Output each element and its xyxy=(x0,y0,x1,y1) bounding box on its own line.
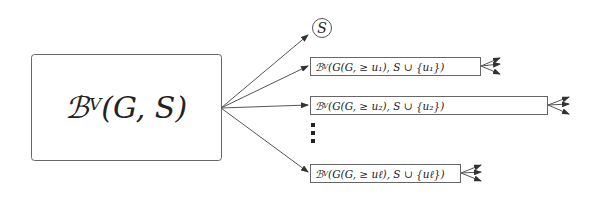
edges xyxy=(221,35,308,172)
root-base: ℬ xyxy=(65,90,89,125)
edge-to-child-3 xyxy=(221,108,308,172)
child-1-base: ℬ xyxy=(315,61,323,73)
child-1-args: (G(G, ≥ u₁), S ∪ {u₁}) xyxy=(328,61,444,73)
edge-to-leaf xyxy=(221,35,308,108)
ellipsis-dots xyxy=(311,123,315,143)
child-node-2-label: ℬV (G(G, ≥ u₂), S ∪ {u₂}) xyxy=(311,97,444,115)
child-node-1-label: ℬV (G(G, ≥ u₁), S ∪ {u₁}) xyxy=(311,58,444,76)
edge-to-child-1 xyxy=(221,66,308,108)
edge-to-child-2 xyxy=(221,105,308,108)
child-3-base: ℬ xyxy=(315,168,323,180)
child-node-3-label: ℬV (G(G, ≥ uℓ), S ∪ {uℓ}) xyxy=(311,165,445,183)
leaf-node-label: S xyxy=(312,18,332,38)
fanout-child-3 xyxy=(461,165,481,181)
child-2-args: (G(G, ≥ u₂), S ∪ {u₂}) xyxy=(328,100,444,112)
root-node-label: ℬV (G, S) xyxy=(31,54,221,160)
root-superscript: V xyxy=(89,94,101,114)
root-args: (G, S) xyxy=(101,90,187,125)
child-2-base: ℬ xyxy=(315,100,323,112)
child-3-args: (G(G, ≥ uℓ), S ∪ {uℓ}) xyxy=(328,168,445,180)
fanout-child-1 xyxy=(481,58,500,74)
fanout-child-2 xyxy=(548,97,569,114)
